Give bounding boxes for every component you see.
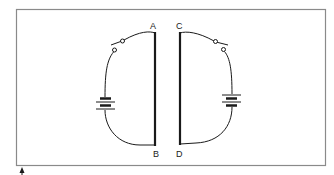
arrow-up-marker-icon <box>20 167 25 175</box>
label-a: A <box>150 21 156 31</box>
diagram-canvas: A B C D <box>0 0 334 175</box>
diagram-frame <box>17 10 326 166</box>
label-d: D <box>176 149 183 159</box>
label-b: B <box>153 149 159 159</box>
label-c: C <box>176 21 183 31</box>
